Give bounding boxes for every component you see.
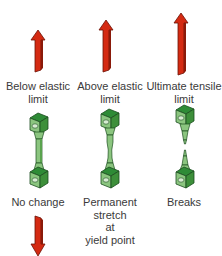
up-arrow-icon [30, 30, 46, 72]
label-line: stretch [74, 209, 146, 222]
specimen-intact-icon [28, 112, 50, 188]
result-label-breaks: Breaks [144, 196, 222, 209]
up-arrow-icon [98, 20, 114, 72]
result-label-permanent-stretch: Permanent stretch at yield point [74, 196, 146, 246]
specimen-broken-icon [174, 104, 196, 188]
label-line: Breaks [144, 196, 222, 209]
label-line: Below elastic [2, 80, 74, 93]
specimen-stretched-icon [99, 108, 121, 188]
label-line: No change [2, 196, 74, 209]
label-line: Permanent [74, 196, 146, 209]
stage-label-ultimate-tensile: Ultimate tensile limit [144, 80, 222, 105]
result-label-no-change: No change [2, 196, 74, 209]
down-arrow-icon [30, 216, 46, 256]
label-line: Ultimate tensile [144, 80, 222, 93]
label-line: Above elastic [74, 80, 146, 93]
stage-label-above-elastic: Above elastic limit [74, 80, 146, 105]
label-line: limit [74, 93, 146, 106]
label-line: at [74, 221, 146, 234]
label-line: limit [2, 93, 74, 106]
up-arrow-icon [173, 13, 189, 75]
label-line: yield point [74, 234, 146, 247]
stage-label-below-elastic: Below elastic limit [2, 80, 74, 105]
